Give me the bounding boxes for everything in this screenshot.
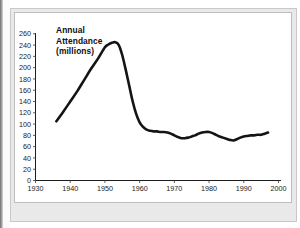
x-tick-label: 1950 [97, 184, 113, 193]
y-tick-label: 220 [19, 52, 31, 61]
x-tick-label: 1940 [62, 184, 78, 193]
y-tick-label: 40 [23, 154, 31, 163]
y-tick-label: 100 [19, 120, 31, 129]
y-tick-label: 80 [23, 131, 31, 140]
chart-title-line-3: (millions) [56, 46, 103, 57]
x-axis-ticks: 19301940195019601970198019902000 [28, 181, 287, 194]
x-tick-label: 2000 [271, 184, 287, 193]
x-tick-label: 1990 [236, 184, 252, 193]
y-tick-label: 200 [19, 63, 31, 72]
y-tick-label: 60 [23, 142, 31, 151]
attendance-line-series [56, 42, 268, 140]
line-chart: 020406080100120140160180200220240260 193… [0, 0, 300, 228]
chart-title-line-1: Annual [56, 25, 103, 36]
y-tick-label: 120 [19, 108, 31, 117]
y-tick-label: 140 [19, 97, 31, 106]
y-axis: 020406080100120140160180200220240260 [19, 29, 36, 185]
x-axis: 19301940195019601970198019902000 [28, 181, 287, 194]
y-tick-label: 160 [19, 86, 31, 95]
x-tick-label: 1970 [166, 184, 182, 193]
y-tick-label: 240 [19, 41, 31, 50]
x-tick-label: 1930 [28, 184, 44, 193]
x-tick-label: 1980 [201, 184, 217, 193]
y-axis-ticks: 020406080100120140160180200220240260 [19, 29, 36, 185]
y-tick-label: 180 [19, 75, 31, 84]
y-tick-label: 260 [19, 29, 31, 38]
chart-title-block: Annual Attendance (millions) [56, 25, 103, 57]
y-tick-label: 20 [23, 165, 31, 174]
x-tick-label: 1960 [132, 184, 148, 193]
figure-page: 020406080100120140160180200220240260 193… [0, 0, 300, 228]
chart-svg: 020406080100120140160180200220240260 193… [0, 0, 300, 228]
chart-title-line-2: Attendance [56, 36, 103, 47]
